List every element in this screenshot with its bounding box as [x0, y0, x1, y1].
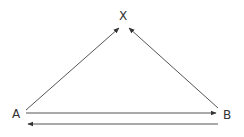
node-label-b: B [223, 109, 231, 121]
node-label-a: A [12, 108, 20, 120]
edge-a-to-x [26, 28, 119, 110]
node-label-x: X [119, 10, 127, 22]
edge-b-to-x [129, 28, 218, 108]
